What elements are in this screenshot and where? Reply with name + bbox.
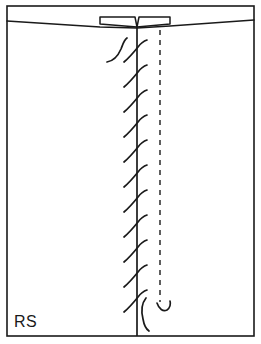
figure-drawing: RS <box>0 0 261 344</box>
figure-container: RS <box>0 0 261 344</box>
figure-background <box>0 0 261 344</box>
corner-label-rs: RS <box>14 313 37 330</box>
